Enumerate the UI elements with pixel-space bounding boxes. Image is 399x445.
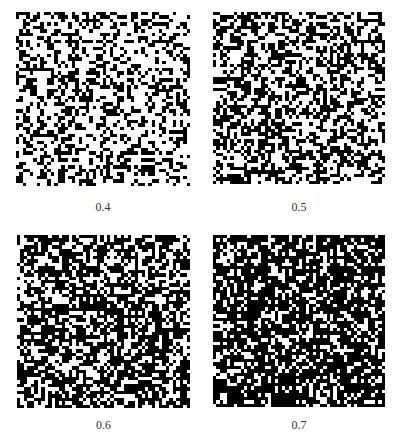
panel-density-0-6 <box>17 235 190 408</box>
random-grid-image <box>16 12 190 186</box>
caption-placeholder: ​ <box>0 436 399 445</box>
figure-caption-truncated: ​ <box>0 436 399 445</box>
random-grid-image <box>213 235 385 407</box>
panel-label: 0.4 <box>16 200 190 215</box>
random-grid-image <box>213 12 385 184</box>
panel-density-0-5 <box>213 12 385 184</box>
panel-density-0-7 <box>213 235 385 407</box>
panel-label: 0.6 <box>17 418 190 433</box>
panel-label: 0.5 <box>213 200 385 215</box>
panel-label: 0.7 <box>213 418 385 433</box>
panel-density-0-4 <box>16 12 190 186</box>
random-grid-image <box>17 235 190 408</box>
